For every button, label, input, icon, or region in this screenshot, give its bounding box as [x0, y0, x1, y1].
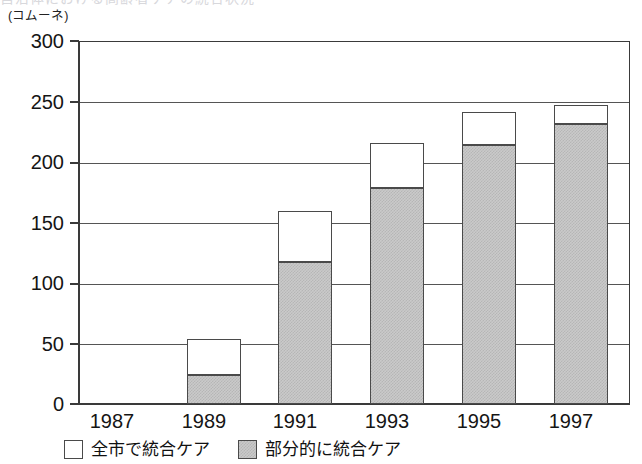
bar-1993-segment-partially-integrated	[370, 188, 424, 404]
gridline-100	[80, 284, 629, 285]
gridline-150	[80, 223, 629, 224]
gridline-200	[80, 163, 629, 164]
bar-1991	[278, 211, 332, 404]
bar-1995-segment-integrated-citywide	[462, 112, 516, 145]
y-axis-label-0: 0	[4, 394, 64, 414]
plot-area	[78, 41, 630, 405]
bar-1991-segment-partially-integrated	[278, 262, 332, 404]
bar-1993-segment-integrated-citywide	[370, 143, 424, 188]
y-tick-250	[70, 101, 79, 103]
y-tick-0	[70, 403, 79, 405]
bar-1997	[554, 105, 608, 404]
bar-1997-segment-partially-integrated	[554, 124, 608, 404]
y-axis-label-150: 150	[4, 213, 64, 233]
cut-off-header-strip: 自治体における高齢者ケアの統合状況	[0, 0, 642, 7]
y-tick-50	[70, 343, 79, 345]
bar-1989-segment-integrated-citywide	[187, 339, 241, 375]
legend-swatch-gray-icon	[238, 440, 257, 459]
bar-1991-segment-integrated-citywide	[278, 211, 332, 262]
bar-1995-segment-partially-integrated	[462, 145, 516, 404]
x-axis-label-1997: 1997	[516, 410, 626, 432]
y-tick-200	[70, 162, 79, 164]
legend-item-integrated-citywide: 全市で統合ケア	[64, 440, 210, 459]
y-axis-label-200: 200	[4, 152, 64, 172]
y-tick-150	[70, 222, 79, 224]
chart-legend: 全市で統合ケア 部分的に統合ケア	[64, 437, 401, 461]
y-axis-label-100: 100	[4, 273, 64, 293]
y-axis-label-50: 50	[4, 334, 64, 354]
legend-label-integrated-citywide: 全市で統合ケア	[91, 440, 210, 459]
y-axis-label-250: 250	[4, 92, 64, 112]
y-tick-300	[70, 40, 79, 42]
y-axis-unit-label: (コムーネ)	[8, 9, 68, 23]
bar-1997-segment-integrated-citywide	[554, 105, 608, 124]
bar-1989-segment-partially-integrated	[187, 375, 241, 404]
legend-swatch-white-icon	[64, 440, 83, 459]
cut-off-header-text: 自治体における高齢者ケアの統合状況	[0, 0, 255, 7]
bar-1989	[187, 339, 241, 404]
gridline-50	[80, 344, 629, 345]
legend-label-partially-integrated: 部分的に統合ケア	[265, 440, 401, 459]
bar-1995	[462, 112, 516, 404]
legend-item-partially-integrated: 部分的に統合ケア	[238, 440, 401, 459]
bar-1993	[370, 143, 424, 404]
y-tick-100	[70, 283, 79, 285]
y-axis-label-300: 300	[4, 31, 64, 51]
gridline-250	[80, 102, 629, 103]
